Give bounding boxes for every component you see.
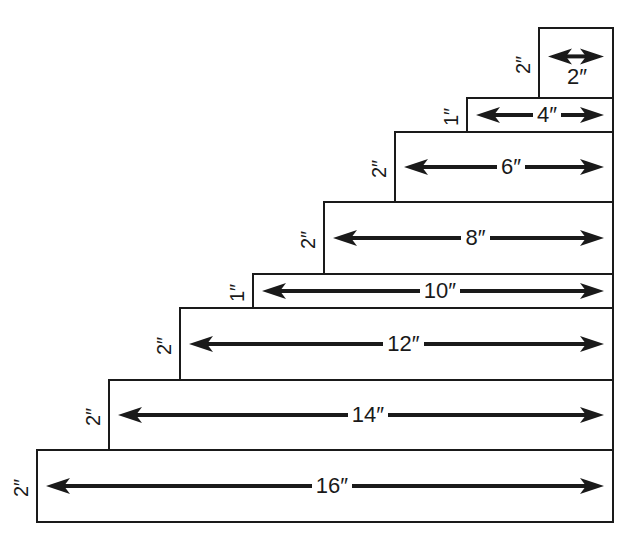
height-label: 2″ <box>513 56 533 74</box>
width-label: 14″ <box>348 404 388 426</box>
dimension-arrows <box>0 0 621 538</box>
width-label: 2″ <box>563 66 591 88</box>
width-label: 16″ <box>312 475 352 497</box>
width-label: 10″ <box>420 280 460 302</box>
height-label: 1″ <box>227 284 247 302</box>
height-label: 2″ <box>154 337 174 355</box>
height-label: 2″ <box>298 231 318 249</box>
width-label: 12″ <box>383 333 423 355</box>
stepped-diagram: 2″2″4″1″6″2″8″2″10″1″12″2″14″2″16″2″ <box>0 0 621 538</box>
width-label: 6″ <box>497 156 525 178</box>
height-label: 2″ <box>83 408 103 426</box>
width-label: 8″ <box>461 227 489 249</box>
width-label: 4″ <box>533 104 561 126</box>
height-label: 1″ <box>441 108 461 126</box>
height-label: 2″ <box>369 160 389 178</box>
height-label: 2″ <box>11 479 31 497</box>
